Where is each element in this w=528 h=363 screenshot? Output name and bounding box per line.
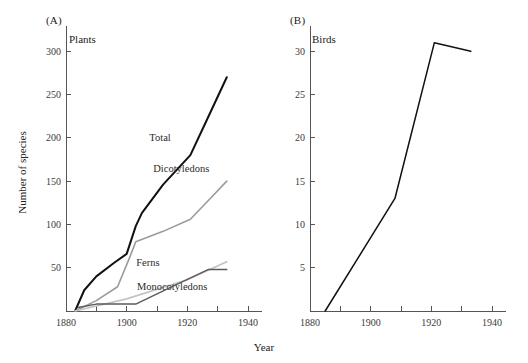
- x-axis-title-text: Year: [254, 341, 274, 353]
- x-tick-label: 1940: [238, 317, 258, 328]
- y-tick-label: 300: [46, 46, 61, 57]
- x-tick-label: 1940: [482, 317, 502, 328]
- x-tick-label: 1880: [300, 317, 320, 328]
- y-tick-label: 50: [51, 262, 61, 273]
- y-tick-label: 15: [295, 176, 305, 187]
- y-tick-label: 20: [295, 132, 305, 143]
- x-tick-label: 1920: [421, 317, 441, 328]
- y-tick-label: 30: [295, 46, 305, 57]
- species-accumulation-figure: (A) Plants 50100150200250300188019001920…: [0, 0, 528, 363]
- y-tick-label: 10: [295, 219, 305, 230]
- y-tick-label: 250: [46, 89, 61, 100]
- x-tick-label: 1900: [361, 317, 381, 328]
- series-label-ferns: Ferns: [136, 257, 159, 268]
- panel-b-birds: (B) Birds 510152025301880190019201940: [264, 0, 528, 363]
- x-tick-label: 1920: [177, 317, 197, 328]
- panel-a-plants: (A) Plants 50100150200250300188019001920…: [0, 0, 264, 363]
- series-label-total: Total: [149, 132, 171, 143]
- y-tick-label: 100: [46, 219, 61, 230]
- panel-a-plot: 501001502002503001880190019201940Number …: [0, 0, 264, 363]
- x-tick-label: 1900: [117, 317, 137, 328]
- y-tick-label: 5: [300, 262, 305, 273]
- y-tick-label: 25: [295, 89, 305, 100]
- y-tick-label: 150: [46, 176, 61, 187]
- y-axis-title: Number of species: [16, 131, 28, 213]
- series-line-total: [75, 77, 227, 311]
- x-axis-title: Year: [0, 341, 528, 353]
- series-line-birds: [325, 43, 471, 311]
- x-tick-label: 1880: [56, 317, 76, 328]
- panel-b-plot: 510152025301880190019201940: [264, 0, 528, 363]
- series-label-dicotyledons: Dicotyledons: [153, 163, 209, 174]
- y-tick-label: 200: [46, 132, 61, 143]
